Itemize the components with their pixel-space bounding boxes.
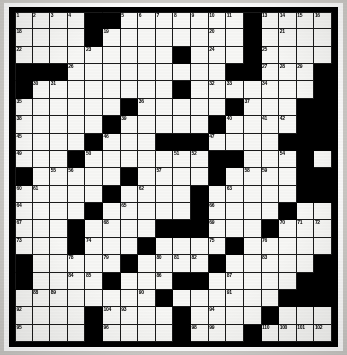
letter-cell[interactable] — [297, 29, 315, 46]
letter-cell[interactable] — [173, 116, 191, 133]
letter-cell[interactable]: 95 — [15, 325, 33, 342]
letter-cell[interactable]: 83 — [262, 255, 280, 272]
letter-cell[interactable] — [244, 151, 262, 168]
letter-cell[interactable]: 92 — [15, 307, 33, 324]
letter-cell[interactable] — [121, 186, 139, 203]
letter-cell[interactable]: 75 — [209, 238, 227, 255]
letter-cell[interactable] — [103, 203, 121, 220]
letter-cell[interactable] — [156, 203, 174, 220]
letter-cell[interactable]: 58 — [244, 168, 262, 185]
letter-cell[interactable]: 46 — [103, 134, 121, 151]
letter-cell[interactable] — [68, 134, 86, 151]
letter-cell[interactable]: 38 — [15, 116, 33, 133]
letter-cell[interactable] — [121, 238, 139, 255]
letter-cell[interactable] — [156, 151, 174, 168]
letter-cell[interactable]: 71 — [297, 220, 315, 237]
letter-cell[interactable] — [314, 203, 332, 220]
letter-cell[interactable]: 64 — [15, 203, 33, 220]
letter-cell[interactable]: 9 — [191, 12, 209, 29]
letter-cell[interactable] — [156, 186, 174, 203]
letter-cell[interactable]: 50 — [85, 151, 103, 168]
letter-cell[interactable] — [226, 134, 244, 151]
letter-cell[interactable] — [121, 29, 139, 46]
letter-cell[interactable]: 7 — [156, 12, 174, 29]
letter-cell[interactable]: 35 — [15, 99, 33, 116]
letter-cell[interactable] — [103, 47, 121, 64]
letter-cell[interactable] — [85, 290, 103, 307]
letter-cell[interactable] — [50, 134, 68, 151]
letter-cell[interactable] — [226, 47, 244, 64]
letter-cell[interactable] — [68, 186, 86, 203]
letter-cell[interactable] — [191, 168, 209, 185]
letter-cell[interactable] — [85, 255, 103, 272]
letter-cell[interactable] — [244, 273, 262, 290]
letter-cell[interactable] — [156, 81, 174, 98]
letter-cell[interactable] — [226, 307, 244, 324]
letter-cell[interactable] — [68, 29, 86, 46]
letter-cell[interactable] — [262, 151, 280, 168]
letter-cell[interactable] — [226, 29, 244, 46]
letter-cell[interactable] — [244, 203, 262, 220]
letter-cell[interactable] — [50, 255, 68, 272]
letter-cell[interactable]: 93 — [121, 307, 139, 324]
letter-cell[interactable] — [50, 307, 68, 324]
letter-cell[interactable] — [33, 29, 51, 46]
letter-cell[interactable] — [156, 116, 174, 133]
letter-cell[interactable]: 85 — [85, 273, 103, 290]
letter-cell[interactable]: 24 — [209, 47, 227, 64]
letter-cell[interactable] — [68, 47, 86, 64]
letter-cell[interactable]: 96 — [103, 325, 121, 342]
letter-cell[interactable]: 2 — [33, 12, 51, 29]
letter-cell[interactable]: 73 — [15, 238, 33, 255]
letter-cell[interactable] — [50, 325, 68, 342]
letter-cell[interactable]: 30 — [33, 81, 51, 98]
letter-cell[interactable] — [50, 99, 68, 116]
letter-cell[interactable] — [209, 64, 227, 81]
letter-cell[interactable] — [50, 29, 68, 46]
letter-cell[interactable] — [121, 134, 139, 151]
letter-cell[interactable] — [85, 99, 103, 116]
letter-cell[interactable]: 81 — [173, 255, 191, 272]
letter-cell[interactable]: 19 — [103, 29, 121, 46]
letter-cell[interactable] — [314, 151, 332, 168]
letter-cell[interactable] — [226, 220, 244, 237]
letter-cell[interactable]: 13 — [262, 12, 280, 29]
letter-cell[interactable] — [138, 220, 156, 237]
letter-cell[interactable] — [262, 273, 280, 290]
letter-cell[interactable] — [138, 64, 156, 81]
letter-cell[interactable] — [121, 47, 139, 64]
crossword-grid[interactable]: 1234567891011131415161819202122232425262… — [15, 12, 332, 342]
letter-cell[interactable]: 27 — [262, 64, 280, 81]
letter-cell[interactable] — [33, 307, 51, 324]
letter-cell[interactable]: 56 — [68, 168, 86, 185]
letter-cell[interactable] — [33, 99, 51, 116]
letter-cell[interactable] — [173, 29, 191, 46]
letter-cell[interactable]: 37 — [244, 99, 262, 116]
letter-cell[interactable] — [279, 238, 297, 255]
letter-cell[interactable] — [297, 238, 315, 255]
letter-cell[interactable] — [209, 186, 227, 203]
letter-cell[interactable]: 45 — [15, 134, 33, 151]
letter-cell[interactable] — [297, 255, 315, 272]
letter-cell[interactable]: 33 — [226, 81, 244, 98]
letter-cell[interactable] — [209, 290, 227, 307]
letter-cell[interactable]: 6 — [138, 12, 156, 29]
letter-cell[interactable] — [173, 186, 191, 203]
letter-cell[interactable] — [244, 238, 262, 255]
letter-cell[interactable]: 42 — [279, 116, 297, 133]
letter-cell[interactable]: 14 — [279, 12, 297, 29]
letter-cell[interactable] — [121, 325, 139, 342]
letter-cell[interactable]: 61 — [33, 186, 51, 203]
letter-cell[interactable] — [156, 99, 174, 116]
letter-cell[interactable] — [68, 290, 86, 307]
letter-cell[interactable] — [262, 290, 280, 307]
letter-cell[interactable] — [191, 29, 209, 46]
letter-cell[interactable] — [279, 307, 297, 324]
letter-cell[interactable] — [262, 186, 280, 203]
letter-cell[interactable]: 78 — [68, 255, 86, 272]
letter-cell[interactable] — [244, 116, 262, 133]
letter-cell[interactable] — [85, 116, 103, 133]
letter-cell[interactable] — [173, 168, 191, 185]
letter-cell[interactable] — [85, 220, 103, 237]
letter-cell[interactable]: 52 — [191, 151, 209, 168]
